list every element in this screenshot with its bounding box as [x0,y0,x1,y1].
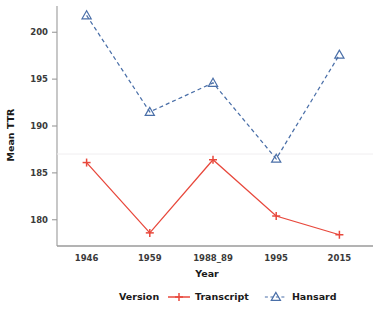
x-tick-label: 1959 [138,253,162,263]
legend-label-transcript: Transcript [195,291,249,302]
series-line [87,160,340,235]
legend-swatch-hansard [265,292,287,300]
y-axis-title: Mean TTR [5,108,16,162]
y-tick-group: 180185190195200 [30,27,57,225]
x-tick-label: 2015 [328,253,352,263]
chart-legend: VersionTranscriptHansard [119,291,337,302]
x-tick-label: 1946 [75,253,99,263]
data-point-marker [335,231,343,239]
data-point-marker [175,293,183,301]
y-tick-label: 200 [30,27,48,37]
y-tick-label: 185 [30,168,48,178]
legend-swatch-transcript [168,293,190,301]
chart-container: 180185190195200 194619591988_8919952015 … [0,0,374,311]
series-transcript [83,156,344,239]
legend-title: Version [119,291,159,302]
x-tick-label: 1995 [264,253,288,263]
series-layer [82,11,344,239]
x-axis-title: Year [194,268,219,279]
series-line [87,15,340,158]
y-tick-label: 190 [30,121,48,131]
data-point-marker [82,11,91,19]
legend-label-hansard: Hansard [292,291,337,302]
series-hansard [82,11,344,162]
line-chart: 180185190195200 194619591988_8919952015 … [0,0,374,311]
x-tick-group: 194619591988_8919952015 [75,253,352,263]
data-point-marker [335,50,344,58]
y-tick-label: 195 [30,74,48,84]
x-tick-label: 1988_89 [193,253,233,263]
y-tick-label: 180 [30,215,48,225]
